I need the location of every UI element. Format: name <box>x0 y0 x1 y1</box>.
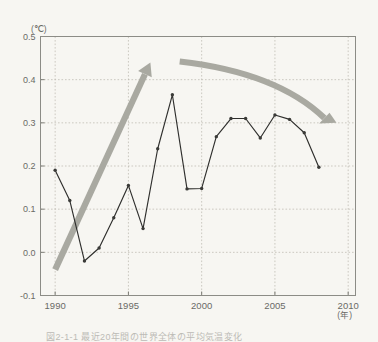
y-axis-tick-label: 0.4 <box>23 75 36 85</box>
data-point-marker <box>317 166 320 169</box>
x-axis-tick-labels-group: 19901995200020052010 <box>45 300 359 311</box>
trend-annotations-group <box>55 62 336 270</box>
y-axis-tick-label: -0.1 <box>20 291 36 301</box>
y-axis-tick-label: 0.1 <box>23 204 36 214</box>
data-point-marker <box>141 227 144 230</box>
data-point-marker <box>53 169 56 172</box>
data-point-marker <box>156 147 159 150</box>
data-point-marker <box>185 187 188 190</box>
data-point-marker <box>68 199 71 202</box>
data-point-markers-group <box>53 93 320 263</box>
x-axis-tick-label: 2000 <box>191 300 212 311</box>
y-axis-unit-label: (℃) <box>31 24 47 34</box>
data-point-marker <box>273 113 276 116</box>
x-axis-tick-label: 1990 <box>45 300 66 311</box>
data-point-marker <box>229 117 232 120</box>
data-point-marker <box>244 117 247 120</box>
data-point-marker <box>83 259 86 262</box>
data-point-marker <box>259 136 262 139</box>
x-axis-tick-label: 2010 <box>338 300 359 311</box>
data-point-marker <box>200 187 203 190</box>
y-axis-tick-label: 0.0 <box>23 248 36 258</box>
arrow-shaft <box>55 74 145 269</box>
data-point-marker <box>127 184 130 187</box>
x-axis-unit-label: (年) <box>337 310 352 320</box>
x-axis-tick-label: 1995 <box>118 300 139 311</box>
figure-caption: 図2-1-1 最近20年間の世界全体の平均気温変化 <box>46 330 243 342</box>
data-point-marker <box>112 216 115 219</box>
y-axis-tick-label: 0.2 <box>23 161 36 171</box>
data-point-marker <box>97 246 100 249</box>
falling-trend-arrow <box>180 62 337 124</box>
data-point-marker <box>303 131 306 134</box>
data-point-marker <box>171 93 174 96</box>
y-axis-tick-labels-group: -0.10.00.10.20.30.40.5 <box>20 32 36 301</box>
data-point-marker <box>215 135 218 138</box>
figure-container: -0.10.00.10.20.30.40.5 19901995200020052… <box>0 0 378 342</box>
gridlines-group <box>41 37 356 296</box>
x-axis-tick-label: 2005 <box>264 300 285 311</box>
figure-caption-strip: 図2-1-1 最近20年間の世界全体の平均気温変化 <box>0 330 378 342</box>
y-axis-tick-label: 0.3 <box>23 118 36 128</box>
data-point-marker <box>288 118 291 121</box>
temperature-anomaly-line-chart: -0.10.00.10.20.30.40.5 19901995200020052… <box>0 0 378 342</box>
